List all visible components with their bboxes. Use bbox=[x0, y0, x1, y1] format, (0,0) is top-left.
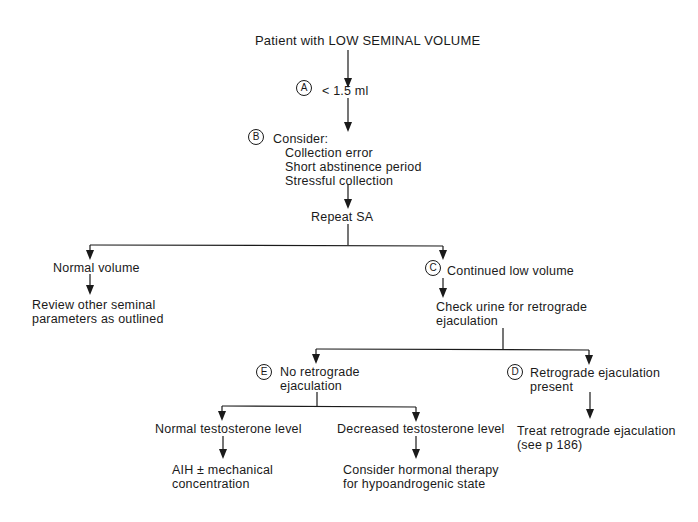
step-b-item: Stressful collection bbox=[285, 174, 422, 188]
aih-line: AIH ± mechanical bbox=[172, 463, 273, 477]
step-d-line: Retrograde ejaculation bbox=[530, 366, 660, 380]
aih-line: concentration bbox=[172, 477, 273, 491]
step-b-label: Consider: bbox=[273, 132, 422, 146]
review-line: parameters as outlined bbox=[32, 312, 164, 326]
check-urine-line: ejaculation bbox=[436, 314, 587, 328]
normal-testosterone-label: Normal testosterone level bbox=[155, 422, 302, 436]
review-node: Review other seminal parameters as outli… bbox=[32, 298, 164, 326]
step-c-label: Continued low volume bbox=[447, 264, 574, 278]
aih-node: AIH ± mechanical concentration bbox=[172, 463, 273, 491]
step-e-node: No retrograde ejaculation bbox=[280, 365, 360, 393]
root-node: Patient with LOW SEMINAL VOLUME bbox=[255, 34, 480, 48]
check-urine-line: Check urine for retrograde bbox=[436, 300, 587, 314]
step-b-item: Collection error bbox=[285, 146, 422, 160]
treat-line: (see p 186) bbox=[517, 438, 676, 452]
step-e-line: No retrograde bbox=[280, 365, 360, 379]
step-b-node: Consider: Collection error Short abstine… bbox=[273, 132, 422, 188]
badge-c-icon: C bbox=[425, 260, 441, 276]
treat-line: Treat retrograde ejaculation bbox=[517, 424, 676, 438]
decreased-testosterone-node: Decreased testosterone level bbox=[337, 422, 505, 436]
step-d-line: present bbox=[530, 380, 660, 394]
badge-e-icon: E bbox=[256, 364, 272, 380]
step-a-node: < 1.5 ml bbox=[322, 84, 368, 98]
root-label: Patient with LOW SEMINAL VOLUME bbox=[255, 33, 480, 48]
step-b-item: Short abstinence period bbox=[285, 160, 422, 174]
step-a-label: < 1.5 ml bbox=[322, 84, 368, 98]
treat-node: Treat retrograde ejaculation (see p 186) bbox=[517, 424, 676, 452]
repeat-sa-node: Repeat SA bbox=[311, 210, 373, 224]
review-line: Review other seminal bbox=[32, 298, 164, 312]
hormonal-line: Consider hormonal therapy bbox=[343, 463, 499, 477]
decreased-testosterone-label: Decreased testosterone level bbox=[337, 422, 505, 436]
normal-volume-label: Normal volume bbox=[53, 261, 140, 275]
check-urine-node: Check urine for retrograde ejaculation bbox=[436, 300, 587, 328]
normal-volume-node: Normal volume bbox=[53, 261, 140, 275]
repeat-sa-label: Repeat SA bbox=[311, 210, 373, 224]
normal-testosterone-node: Normal testosterone level bbox=[155, 422, 302, 436]
step-e-line: ejaculation bbox=[280, 379, 360, 393]
badge-d-icon: D bbox=[507, 364, 523, 380]
hormonal-line: for hypoandrogenic state bbox=[343, 477, 499, 491]
hormonal-node: Consider hormonal therapy for hypoandrog… bbox=[343, 463, 499, 491]
step-c-node: Continued low volume bbox=[447, 264, 574, 278]
step-d-node: Retrograde ejaculation present bbox=[530, 366, 660, 394]
badge-a-icon: A bbox=[296, 80, 312, 96]
badge-b-icon: B bbox=[248, 129, 264, 145]
